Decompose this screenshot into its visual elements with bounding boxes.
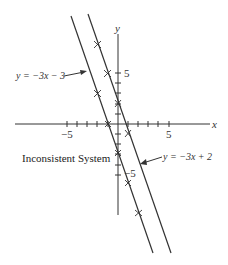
line1-arrow-head-icon <box>80 70 87 75</box>
x-tick-label-5: 5 <box>166 128 172 140</box>
line-y-eq-neg3x-plus-2 <box>88 14 171 253</box>
line-y-eq-neg3x-minus-3 <box>71 16 153 253</box>
y-tick-label-5: 5 <box>124 67 130 79</box>
x-tick-label-neg5: −5 <box>61 128 73 140</box>
line2-equation-label: y = −3x + 2 <box>162 151 212 162</box>
line1-equation-label: y = −3x − 3 <box>15 70 65 81</box>
y-axis-label: y <box>114 22 120 34</box>
figure-caption: Inconsistent System <box>22 152 111 164</box>
inconsistent-system-graph: x y −5 5 5 −5 <box>0 0 228 265</box>
x-axis-label: x <box>211 118 217 130</box>
line2-arrow-head-icon <box>140 159 147 165</box>
